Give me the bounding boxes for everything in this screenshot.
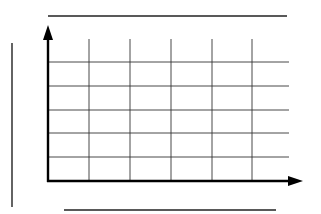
x-axis-arrow-icon bbox=[288, 176, 303, 186]
blank-chart bbox=[0, 0, 321, 214]
grid bbox=[48, 39, 289, 181]
y-axis-arrow-icon bbox=[43, 25, 53, 40]
